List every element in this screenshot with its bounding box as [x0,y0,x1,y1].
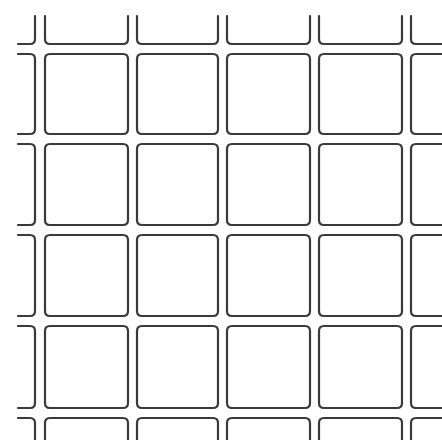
rounded-square-grid [0,0,442,440]
background [0,0,442,440]
